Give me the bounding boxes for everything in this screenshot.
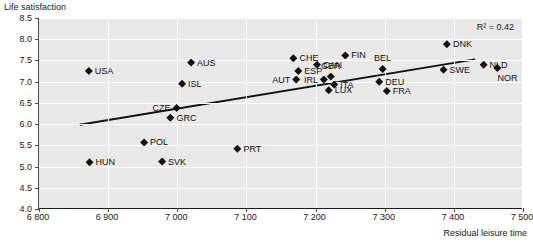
y-axis-title: Life satisfaction <box>4 2 66 13</box>
x-tick-label: 6 800 <box>27 213 50 222</box>
gridline-vertical <box>385 18 386 208</box>
regression-line <box>39 18 522 208</box>
r-squared-annotation: R² = 0.42 <box>477 23 514 32</box>
data-point-label: HUN <box>96 158 116 167</box>
y-tick-label: 8.0 <box>19 35 32 44</box>
gridline-horizontal <box>39 39 522 40</box>
gridline-vertical <box>108 18 109 208</box>
y-tick-mark <box>35 60 39 61</box>
x-tick-label: 7 500 <box>511 213 533 222</box>
y-tick-mark <box>35 167 39 168</box>
data-point-label: FIN <box>351 51 366 60</box>
x-tick-label: 7 000 <box>165 213 188 222</box>
x-tick-label: 7 300 <box>372 213 395 222</box>
y-tick-mark <box>35 39 39 40</box>
gridline-horizontal <box>39 145 522 146</box>
data-point-label: IRL <box>304 76 318 85</box>
y-tick-mark <box>35 82 39 83</box>
data-point-label: AUT <box>272 76 290 85</box>
x-tick-label: 7 200 <box>303 213 326 222</box>
gridline-horizontal <box>39 124 522 125</box>
data-point-label: AUS <box>197 59 216 68</box>
y-tick-label: 4.5 <box>19 184 32 193</box>
data-point-label: BEL <box>374 54 391 63</box>
data-point-label: USA <box>95 67 114 76</box>
data-point-label: GRC <box>176 114 196 123</box>
data-point-label: FRA <box>393 87 411 96</box>
x-tick-label: 6 900 <box>96 213 119 222</box>
data-point-label: CHE <box>299 54 318 63</box>
data-point-label: SVK <box>168 158 186 167</box>
y-tick-label: 6.0 <box>19 120 32 129</box>
gridline-horizontal <box>39 188 522 189</box>
y-tick-label: 7.0 <box>19 78 32 87</box>
data-point-label: SWE <box>450 66 471 75</box>
data-point-label: NOR <box>497 74 517 83</box>
x-axis-title: Residual leisure time <box>443 228 527 239</box>
y-tick-label: 5.0 <box>19 163 32 172</box>
data-point-label: CZE <box>153 104 171 113</box>
data-point-label: DNK <box>453 40 472 49</box>
gridline-horizontal <box>39 18 522 19</box>
data-point-label: POL <box>150 138 168 147</box>
y-tick-label: 7.5 <box>19 56 32 65</box>
y-tick-label: 6.5 <box>19 99 32 108</box>
scatter-chart: Life satisfaction Residual leisure time … <box>0 0 533 244</box>
y-tick-label: 5.5 <box>19 141 32 150</box>
y-tick-mark <box>35 124 39 125</box>
gridline-vertical <box>246 18 247 208</box>
gridline-horizontal <box>39 103 522 104</box>
y-tick-label: 8.5 <box>19 14 32 23</box>
data-point-label: LUX <box>335 86 353 95</box>
plot-area: USAHUNPOLSVKGRCCZEISLAUSPRTAUTESPCHECANI… <box>38 18 522 209</box>
y-tick-mark <box>35 103 39 104</box>
y-tick-mark <box>35 145 39 146</box>
data-point-label: ISL <box>188 80 202 89</box>
y-tick-mark <box>35 18 39 19</box>
gridline-vertical <box>316 18 317 208</box>
gridline-horizontal <box>39 60 522 61</box>
x-tick-label: 7 100 <box>234 213 257 222</box>
data-point-label: PRT <box>243 145 261 154</box>
x-tick-label: 7 400 <box>442 213 465 222</box>
data-point-label: GBR <box>321 62 341 71</box>
plot-inner: USAHUNPOLSVKGRCCZEISLAUSPRTAUTESPCHECANI… <box>39 18 522 208</box>
y-tick-mark <box>35 188 39 189</box>
